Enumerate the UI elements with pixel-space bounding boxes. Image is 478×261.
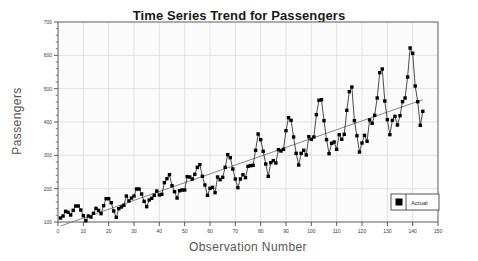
data-point-marker: [419, 124, 422, 127]
data-point-marker: [322, 119, 325, 122]
data-point-marker: [315, 113, 318, 116]
x-tick-label: 40: [157, 228, 163, 234]
data-point-marker: [142, 200, 145, 203]
data-point-marker: [102, 204, 105, 207]
data-point-marker: [163, 181, 166, 184]
data-point-marker: [241, 173, 244, 176]
data-point-marker: [267, 175, 270, 178]
y-tick-label: 400: [44, 119, 53, 125]
data-point-marker: [358, 150, 361, 153]
data-point-marker: [284, 129, 287, 132]
x-tick-label: 20: [106, 228, 112, 234]
data-point-marker: [236, 186, 239, 189]
data-point-marker: [343, 133, 346, 136]
data-point-marker: [115, 216, 118, 219]
chart-legend[interactable]: Actual: [391, 194, 439, 210]
data-point-marker: [112, 209, 115, 212]
data-point-marker: [378, 71, 381, 74]
data-point-marker: [173, 190, 176, 193]
data-point-marker: [155, 189, 158, 192]
data-point-marker: [274, 161, 277, 164]
data-point-marker: [239, 177, 242, 180]
data-point-marker: [406, 75, 409, 78]
data-point-marker: [345, 109, 348, 112]
data-point-marker: [259, 138, 262, 141]
x-tick-label: 120: [358, 228, 367, 234]
x-tick-label: 80: [258, 228, 264, 234]
data-point-marker: [127, 199, 130, 202]
data-point-marker: [256, 132, 259, 135]
data-point-marker: [226, 153, 229, 156]
data-point-marker: [294, 152, 297, 155]
y-tick-label: 700: [44, 19, 53, 25]
data-point-marker: [160, 193, 163, 196]
data-point-marker: [82, 214, 85, 217]
data-point-marker: [370, 122, 373, 125]
data-point-marker: [383, 99, 386, 102]
chart-screenshot: Time Series Trend for Passengers Passeng…: [0, 0, 478, 261]
data-point-marker: [107, 197, 110, 200]
data-point-marker: [353, 119, 356, 122]
data-point-marker: [79, 208, 82, 211]
data-point-marker: [165, 177, 168, 180]
data-point-marker: [320, 98, 323, 101]
data-point-marker: [393, 115, 396, 118]
data-point-marker: [122, 204, 125, 207]
data-point-marker: [360, 141, 363, 144]
data-point-marker: [145, 205, 148, 208]
data-point-marker: [201, 175, 204, 178]
legend-marker-icon: [396, 199, 403, 206]
data-point-marker: [89, 215, 92, 218]
data-point-marker: [211, 186, 214, 189]
data-point-marker: [110, 201, 113, 204]
x-tick-label: 10: [81, 228, 87, 234]
x-tick-label: 150: [434, 228, 443, 234]
data-point-marker: [373, 114, 376, 117]
data-point-marker: [99, 212, 102, 215]
data-point-marker: [381, 67, 384, 70]
data-point-marker: [203, 183, 206, 186]
data-point-marker: [224, 166, 227, 169]
x-tick-label: 100: [307, 228, 316, 234]
data-point-marker: [365, 140, 368, 143]
data-point-marker: [193, 173, 196, 176]
data-point-marker: [213, 191, 216, 194]
data-point-marker: [292, 135, 295, 138]
data-point-marker: [264, 162, 267, 165]
data-point-marker: [421, 110, 424, 113]
x-tick-label: 0: [57, 228, 60, 234]
data-point-marker: [168, 173, 171, 176]
data-point-marker: [335, 148, 338, 151]
data-point-marker: [403, 96, 406, 99]
x-tick-label: 110: [333, 228, 341, 234]
data-point-marker: [302, 149, 305, 152]
data-point-marker: [312, 135, 315, 138]
data-point-marker: [332, 140, 335, 143]
data-point-marker: [340, 138, 343, 141]
data-point-marker: [221, 176, 224, 179]
data-point-marker: [191, 177, 194, 180]
y-tick-label: 100: [44, 219, 53, 225]
data-point-marker: [396, 123, 399, 126]
data-point-marker: [175, 196, 178, 199]
data-point-marker: [416, 100, 419, 103]
data-point-marker: [408, 46, 411, 49]
data-point-marker: [325, 138, 328, 141]
data-point-marker: [206, 194, 209, 197]
data-point-marker: [254, 149, 257, 152]
y-tick-label: 200: [44, 186, 53, 192]
data-point-marker: [411, 52, 414, 55]
x-tick-label: 130: [383, 228, 392, 234]
data-point-marker: [153, 194, 156, 197]
chart-plot-area: 1002003004005006007000102030405060708090…: [0, 0, 478, 261]
x-tick-label: 90: [283, 228, 289, 234]
data-point-marker: [97, 209, 100, 212]
data-point-marker: [282, 148, 285, 151]
data-point-marker: [368, 118, 371, 121]
data-point-marker: [229, 156, 232, 159]
data-point-marker: [398, 114, 401, 117]
data-point-marker: [363, 134, 366, 137]
data-point-marker: [234, 177, 237, 180]
data-point-marker: [170, 184, 173, 187]
x-tick-label: 140: [408, 228, 417, 234]
